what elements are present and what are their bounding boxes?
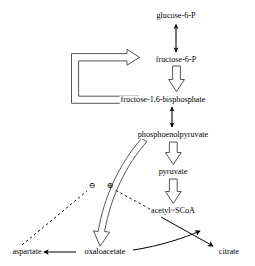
node-label-acetyl-scoa: acetyl~SCoA <box>150 207 196 215</box>
edge-fructose6p-fbp <box>169 66 185 92</box>
node-label-aspartate: aspartate <box>11 248 42 256</box>
node-label-pyruvate: pyruvate <box>158 168 189 176</box>
edge-pep-pyruvate <box>165 142 181 165</box>
activation-sign-icon: ⊕ <box>107 182 114 190</box>
edge-acetylscoa-citrate <box>161 217 213 246</box>
edge-oxaloacetate-citrate <box>133 231 200 250</box>
node-label-glucose-6-p: glucose-6-P <box>155 12 196 20</box>
pathway-diagram: inhibition sign : dashed regulation line… <box>0 0 255 266</box>
node-label-fructose-6-p: fructose-6-P <box>155 56 197 64</box>
edge-acetylscoa-activation <box>115 190 150 209</box>
node-label-fructose-1-6-bisphosphate: fructose-1,6-bisphosphate <box>120 96 207 104</box>
edge-pep-oxaloacetate <box>93 139 147 247</box>
node-label-phosphoenolpyruvate: phosphoenolpyruvate <box>137 131 210 139</box>
inhibition-sign-icon: ⊖ <box>89 182 96 190</box>
node-label-oxaloacetate: oxaloacetate <box>84 248 127 256</box>
node-label-citrate: citrate <box>218 248 240 256</box>
edge-aspartate-inhibition <box>22 191 87 245</box>
pathway-connections: inhibition sign : dashed regulation line… <box>0 0 255 266</box>
edge-pyruvate-acetylscoa <box>165 179 181 204</box>
